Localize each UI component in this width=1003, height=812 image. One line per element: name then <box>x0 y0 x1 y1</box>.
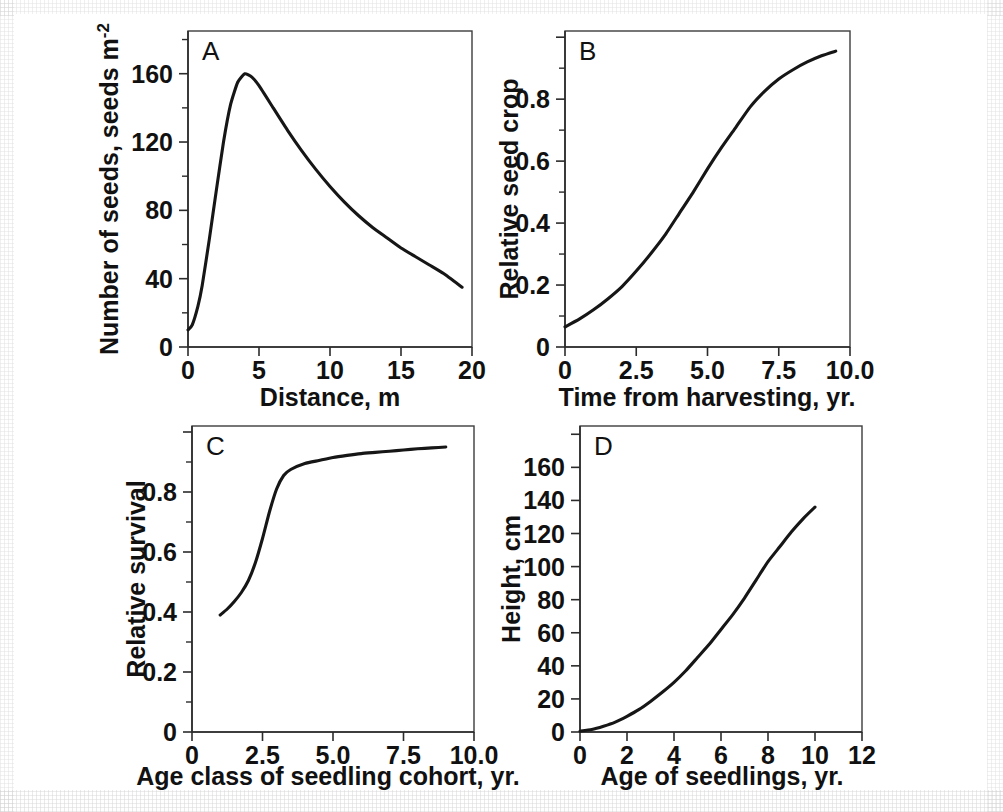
panel-d-ytick-label: 80 <box>537 586 565 614</box>
panel-a-ytick-label: 80 <box>145 196 173 224</box>
panel-b-ylabel: Relative seed crop <box>495 79 523 300</box>
panel-b-xtick-label: 2.5 <box>619 356 654 384</box>
panel-d-ytick-label: 60 <box>537 619 565 647</box>
panel-a-ytick-label: 40 <box>145 265 173 293</box>
panel-b-plot-area: B 02.55.07.510.000.20.40.60.8 <box>515 31 874 384</box>
panel-a-xtick-label: 0 <box>181 356 195 384</box>
figure-page: A 0510152004080120160 Distance, m Number… <box>0 0 1003 812</box>
panel-d-ylabel-group: Height, cm <box>497 515 525 643</box>
panel-b-xtick-label: 10.0 <box>826 356 875 384</box>
panel-c-ylabel-group: Relative survival <box>122 480 150 677</box>
panel-d-ytick-label: 40 <box>537 652 565 680</box>
panel-d-xtick-label: 12 <box>848 741 876 769</box>
paper-texture-bottom <box>0 790 1003 812</box>
panel-d-ytick-label: 100 <box>523 553 565 581</box>
panel-b-xtick-label: 5.0 <box>690 356 725 384</box>
panel-d-ylabel: Height, cm <box>497 515 525 643</box>
panel-c-ticks <box>183 426 474 741</box>
panel-c-frame <box>192 426 474 732</box>
paper-texture-left <box>0 0 14 812</box>
panel-a-xtick-label: 5 <box>252 356 266 384</box>
panel-b-curve <box>565 51 836 327</box>
panel-d-curve <box>580 507 815 731</box>
panel-a-plot-area: A 0510152004080120160 <box>131 31 486 384</box>
panel-b-ticks <box>556 31 850 356</box>
panel-b-tick-labels: 02.55.07.510.000.20.40.60.8 <box>515 85 874 384</box>
panel-a-ylabel-main: Number of seeds, seeds m <box>95 38 123 355</box>
panel-a-ytick-label: 0 <box>159 333 173 361</box>
panel-d-frame <box>580 426 862 732</box>
panel-c-xlabel: Age class of seedling cohort, yr. <box>136 762 519 790</box>
panel-c-plot-area: C 02.55.07.510.000.20.40.60.8 <box>142 426 498 769</box>
panel-a-ytick-label: 120 <box>131 128 173 156</box>
panel-d-letter: D <box>594 431 613 461</box>
panel-c-letter: C <box>206 431 225 461</box>
panel-d-xlabel: Age of seedlings, yr. <box>600 762 843 790</box>
panel-b-letter: B <box>579 36 596 66</box>
panel-d-ticks <box>571 426 862 741</box>
panel-d: D 024681012020406080100120140160 Age of … <box>492 404 987 790</box>
panel-a-xtick-label: 20 <box>458 356 486 384</box>
panel-c-ytick-label: 0 <box>163 718 177 746</box>
panel-d-ytick-label: 120 <box>523 520 565 548</box>
paper-texture-right <box>987 0 1003 812</box>
panel-b-ylabel-group: Relative seed crop <box>495 79 523 300</box>
panel-c-tick-labels: 02.55.07.510.000.20.40.60.8 <box>142 478 498 769</box>
panel-c-curve <box>220 447 446 615</box>
panel-b-xtick-label: 0 <box>558 356 572 384</box>
panel-d-ytick-label: 20 <box>537 685 565 713</box>
panel-a-curve <box>188 74 462 330</box>
panel-a-ylabel-superscript: -2 <box>94 23 113 38</box>
panel-a-ylabel-group: Number of seeds, seeds m-2 <box>94 23 123 355</box>
panel-d-plot-area: D 024681012020406080100120140160 <box>523 426 876 769</box>
panel-a-letter: A <box>202 36 220 66</box>
four-panel-figure: A 0510152004080120160 Distance, m Number… <box>14 14 987 790</box>
panel-a-ylabel: Number of seeds, seeds m-2 <box>94 23 123 355</box>
panel-c: C 02.55.07.510.000.20.40.60.8 Age class … <box>14 404 514 790</box>
panel-c-ylabel: Relative survival <box>122 480 150 677</box>
panel-a: A 0510152004080120160 Distance, m Number… <box>14 14 514 414</box>
panel-b: B 02.55.07.510.000.20.40.60.8 Time from … <box>492 14 987 414</box>
panel-a-ticks <box>179 31 472 356</box>
panel-a-ytick-label: 160 <box>131 60 173 88</box>
panel-d-ytick-label: 140 <box>523 486 565 514</box>
panel-b-xtick-label: 7.5 <box>761 356 796 384</box>
panel-a-frame <box>188 31 472 347</box>
panel-a-xtick-label: 15 <box>387 356 415 384</box>
panel-d-xtick-label: 0 <box>573 741 587 769</box>
panel-d-ytick-label: 160 <box>523 453 565 481</box>
panel-a-xtick-label: 10 <box>316 356 344 384</box>
panel-b-ytick-label: 0 <box>536 333 550 361</box>
panel-d-ytick-label: 0 <box>551 718 565 746</box>
